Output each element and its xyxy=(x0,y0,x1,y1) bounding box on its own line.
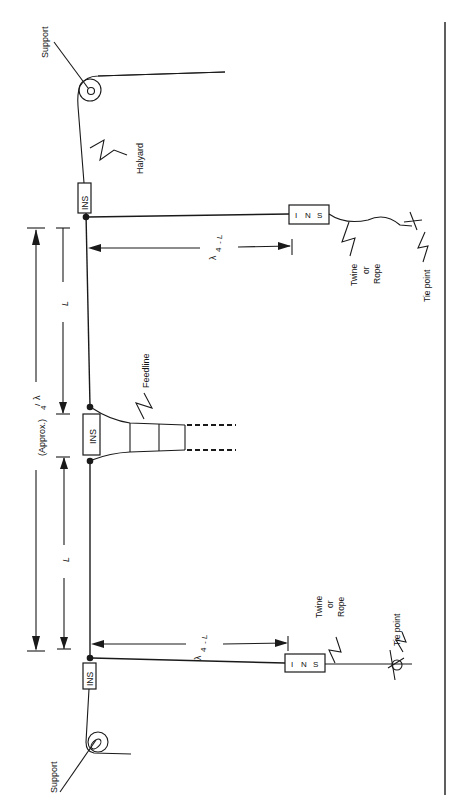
twine-pointer-bottom xyxy=(329,637,341,663)
center-insulator-label: INS xyxy=(88,429,98,444)
tie-point-label-bottom: Tie point xyxy=(392,613,402,646)
support-rope-top xyxy=(98,72,225,76)
lambda-symbol: λ xyxy=(32,395,42,400)
twine-label-top-1: Twine xyxy=(349,264,359,286)
ins-letter: S xyxy=(313,660,318,669)
ins-letter: I xyxy=(295,211,297,220)
minus-L-label: - L xyxy=(200,635,209,644)
dimension-L-top: L xyxy=(56,228,70,414)
lambda-four-small: 4 xyxy=(199,647,208,652)
dimension-L-bottom: L xyxy=(56,457,71,649)
feedline-label: Feedline xyxy=(141,353,151,388)
support-label-bottom: Support xyxy=(49,761,59,793)
ins-letter: N xyxy=(301,660,307,669)
lambda-approx: (Approx.) xyxy=(37,419,47,456)
twine-label-bottom-2: or xyxy=(325,600,335,608)
twine-label-bottom-3: Rope xyxy=(336,596,346,617)
insulator-top-label: INS xyxy=(80,196,90,211)
connection-dot xyxy=(87,404,94,411)
antenna-diagram: Support Halyard INS INS INS Support Feed… xyxy=(0,0,450,810)
lambda-symbol-small: λ xyxy=(193,655,203,660)
twine-label-top-3: Rope xyxy=(372,263,382,284)
dimension-quarter-minus-L-top: λ 4 - L xyxy=(88,235,292,260)
twine-label-top-2: or xyxy=(361,266,371,274)
minus-L-label: - L xyxy=(215,235,224,244)
bottom-support: Support xyxy=(49,689,131,793)
twine-label-bottom-1: Twine xyxy=(314,596,324,618)
top-support: Support xyxy=(40,26,225,183)
dimension-quarter-minus-L-bottom: λ 4 - L xyxy=(91,635,288,660)
tie-point-label-top: Tie point xyxy=(422,269,432,302)
ins-letter: I xyxy=(291,660,293,669)
insulator-bottom-label: INS xyxy=(85,672,95,687)
L-label-bottom: L xyxy=(61,557,71,562)
lambda-four: 4 xyxy=(39,405,48,410)
feedline-pointer xyxy=(136,393,152,419)
L-label-top: L xyxy=(60,301,70,306)
twine-pointer-top xyxy=(342,222,355,256)
support-label-top: Support xyxy=(40,26,50,58)
tie-pointer-top xyxy=(418,232,428,262)
pulley-icon xyxy=(88,732,108,752)
feedline xyxy=(92,408,236,460)
lambda-four-small: 4 xyxy=(214,247,223,252)
halyard-pointer xyxy=(90,140,127,160)
dimension-quarter-wave: λ / 4 (Approx.) xyxy=(27,228,48,651)
ins-letter: S xyxy=(317,211,322,220)
lambda-symbol-small: λ xyxy=(208,255,218,260)
halyard-label: Halyard xyxy=(135,143,145,174)
ins-letter: N xyxy=(305,211,311,220)
